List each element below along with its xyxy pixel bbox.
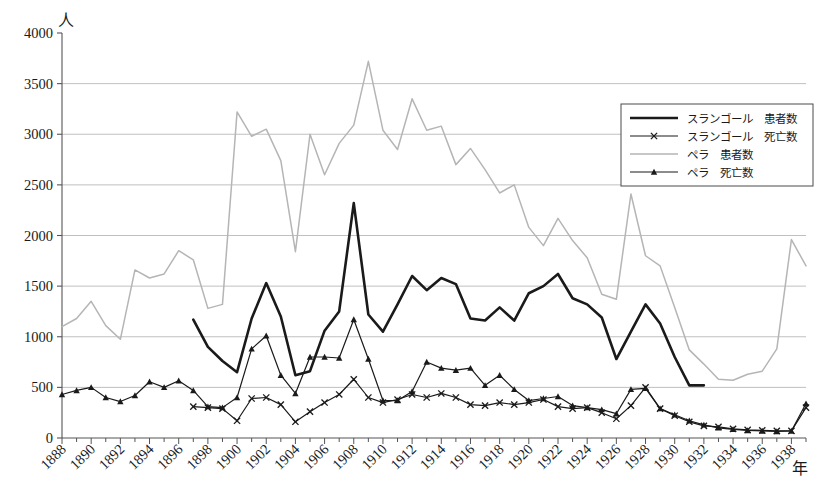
y-tick-label: 2500 — [24, 177, 53, 193]
epidemic-line-chart: 05001000150020002500300035004000 1888189… — [0, 0, 832, 499]
y-tick-label: 3000 — [24, 126, 53, 142]
legend-label: ペラ 患者数 — [687, 148, 754, 162]
chart-legend[interactable]: スランゴール 患者数スランゴール 死亡数ペラ 患者数ペラ 死亡数 — [621, 104, 813, 186]
chart-container: 05001000150020002500300035004000 1888189… — [0, 0, 832, 499]
y-tick-label: 4000 — [24, 25, 53, 41]
legend-label: ペラ 死亡数 — [687, 166, 754, 180]
y-axis-unit-label: 人 — [58, 11, 74, 30]
y-tick-label: 0 — [46, 430, 53, 446]
legend-label: スランゴール 死亡数 — [687, 130, 798, 144]
legend-label: スランゴール 患者数 — [687, 112, 798, 126]
chart-background — [0, 0, 832, 499]
y-tick-label: 1000 — [24, 329, 53, 345]
x-axis-unit-label: 年 — [792, 459, 808, 478]
y-tick-label: 1500 — [24, 278, 53, 294]
y-tick-label: 2000 — [24, 228, 53, 244]
y-tick-label: 500 — [31, 379, 53, 395]
y-tick-label: 3500 — [24, 76, 53, 92]
